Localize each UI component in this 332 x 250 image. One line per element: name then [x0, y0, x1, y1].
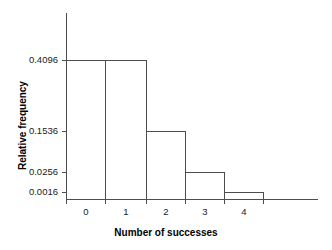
- y-tick-label-3: 0.0016: [12, 187, 58, 197]
- x-tick-label-4: 4: [229, 207, 259, 217]
- x-tick-label-1: 1: [111, 207, 141, 217]
- x-tick-label-3: 3: [190, 207, 220, 217]
- chart-figure: 0.4096 0.1536 0.0256 0.0016 0 1 2 3 4 Nu…: [0, 0, 332, 250]
- y-tick-label-0: 0.4096: [12, 55, 58, 65]
- bar-series: [67, 61, 264, 200]
- y-axis-ticks: [62, 61, 66, 193]
- bar-4: [225, 193, 264, 200]
- bar-3: [186, 173, 225, 200]
- x-tick-label-0: 0: [71, 207, 101, 217]
- bar-1: [106, 61, 147, 200]
- x-tick-label-2: 2: [151, 207, 181, 217]
- bar-2: [147, 132, 186, 200]
- bar-0: [67, 61, 106, 200]
- y-axis-title: Relative frequency: [18, 81, 28, 170]
- x-axis-title: Number of successes: [0, 228, 332, 238]
